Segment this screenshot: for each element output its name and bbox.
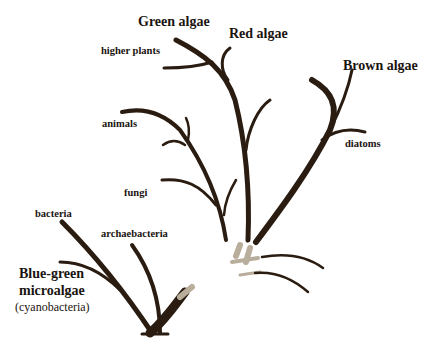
- eukaryote-branches: [122, 40, 365, 292]
- label-animals: animals: [102, 118, 137, 129]
- label-diatoms: diatoms: [345, 138, 381, 149]
- label-brown-algae: Brown algae: [343, 58, 418, 74]
- label-green-algae: Green algae: [138, 14, 210, 30]
- label-fungi: fungi: [124, 187, 147, 198]
- label-bacteria: bacteria: [35, 208, 72, 219]
- label-red-algae: Red algae: [229, 26, 288, 42]
- label-cyanobacteria: (cyanobacteria): [15, 300, 90, 315]
- label-higher-plants: higher plants: [101, 45, 160, 56]
- label-microalgae: microalgae: [19, 283, 85, 299]
- label-archaebacteria: archaebacteria: [101, 228, 168, 239]
- label-blue-green: Blue-green: [19, 266, 84, 282]
